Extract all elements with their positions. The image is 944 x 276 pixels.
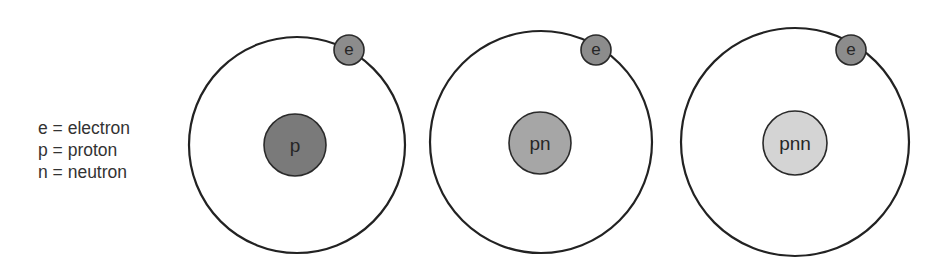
electron-label: e xyxy=(846,40,855,59)
atoms-diagram: p e pn e pnn e xyxy=(0,0,944,276)
atom-1: p e xyxy=(189,35,405,253)
nucleus-label: pnn xyxy=(779,133,811,154)
electron-label: e xyxy=(344,40,353,59)
atom-2: pn e xyxy=(430,31,652,253)
nucleus-label: p xyxy=(290,135,301,156)
atom-3: pnn e xyxy=(681,28,909,256)
nucleus-label: pn xyxy=(529,133,550,154)
electron-label: e xyxy=(591,40,600,59)
